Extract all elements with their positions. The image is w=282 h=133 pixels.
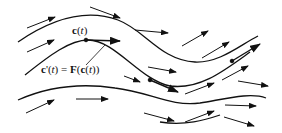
tangent-vectors	[84, 38, 260, 92]
flow-line-1	[18, 15, 258, 62]
tangent-arrow-3	[232, 44, 260, 61]
equation-label: c'(t) = F(c(t))	[41, 63, 99, 75]
leader-line	[86, 45, 105, 65]
flow-line-3	[18, 86, 266, 104]
curve-label: c(t)	[72, 24, 87, 36]
tangent-arrow-1	[86, 40, 120, 41]
